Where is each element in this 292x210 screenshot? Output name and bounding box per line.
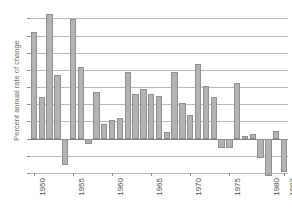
bar <box>234 83 240 139</box>
bar <box>78 67 84 138</box>
bar <box>187 115 193 139</box>
bar <box>281 139 287 173</box>
bar <box>54 75 60 139</box>
x-tick-mark <box>190 173 191 176</box>
x-tick-label: 1982 <box>288 178 292 196</box>
bar <box>250 134 256 138</box>
x-axis: 19501955196019651970197519801982 <box>30 173 288 210</box>
bar <box>148 94 154 139</box>
bar <box>93 92 99 138</box>
chart-container: Percent annual rate of change 76543210-1… <box>0 0 292 210</box>
x-tick-mark <box>268 173 269 176</box>
x-tick-mark <box>112 173 113 176</box>
bar <box>273 131 279 139</box>
bar <box>164 132 170 139</box>
bar <box>101 124 107 139</box>
x-tick-mark <box>151 173 152 176</box>
bar <box>226 139 232 148</box>
x-tick-mark <box>284 173 285 176</box>
bar <box>218 139 224 148</box>
bar <box>70 19 76 138</box>
plot-area: 76543210-1-2 <box>30 8 288 173</box>
bar <box>195 64 201 139</box>
bars-group <box>30 8 288 173</box>
x-tick-label: 1970 <box>194 178 203 196</box>
bar <box>117 118 123 139</box>
x-tick-mark <box>73 173 74 176</box>
bar <box>109 120 115 139</box>
bar <box>257 139 263 158</box>
bar <box>203 86 209 138</box>
bar <box>242 136 248 139</box>
x-tick-mark <box>229 173 230 176</box>
x-tick-label: 1980 <box>272 178 281 196</box>
x-tick-mark <box>34 173 35 176</box>
bar <box>179 103 185 138</box>
bar <box>46 14 52 139</box>
bar <box>140 89 146 139</box>
x-tick-label: 1975 <box>233 178 242 196</box>
bar <box>62 139 68 166</box>
bar <box>265 139 271 177</box>
y-axis-title: Percent annual rate of change <box>12 21 21 161</box>
x-tick-label: 1965 <box>155 178 164 196</box>
bar <box>171 72 177 138</box>
bar <box>31 32 37 139</box>
bar <box>211 97 217 138</box>
bar <box>39 97 45 139</box>
x-tick-label: 1950 <box>38 178 47 196</box>
bar <box>85 139 91 144</box>
bar <box>125 72 131 139</box>
x-tick-label: 1955 <box>77 178 86 196</box>
bar <box>156 96 162 139</box>
x-tick-label: 1960 <box>116 178 125 196</box>
bar <box>132 94 138 139</box>
